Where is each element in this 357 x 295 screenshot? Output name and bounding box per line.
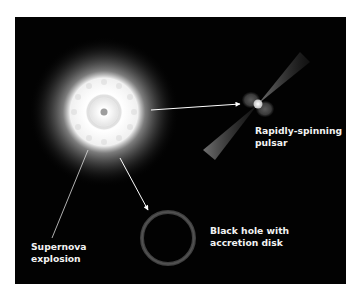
supernova-label: Supernova explosion [31, 241, 87, 265]
pulsar-label-line-2: pulsar [255, 137, 342, 149]
pulsar-label: Rapidly-spinning pulsar [255, 125, 342, 149]
supernova-label-line-2: explosion [31, 253, 87, 265]
black-hole-icon [142, 212, 194, 264]
black-hole-label-line-1: Black hole with [210, 225, 289, 237]
supernova-label-line-1: Supernova [31, 241, 87, 253]
black-hole-label: Black hole with accretion disk [210, 225, 289, 249]
pulsar-label-line-1: Rapidly-spinning [255, 125, 342, 137]
supernova-icon [29, 37, 179, 187]
black-hole-label-line-2: accretion disk [210, 237, 289, 249]
